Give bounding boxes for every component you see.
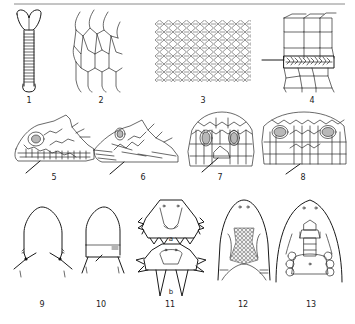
figure-5-drawing bbox=[14, 115, 94, 175]
figure-2-drawing bbox=[70, 10, 125, 92]
figure-8-drawing bbox=[260, 112, 346, 174]
figure-7-drawing bbox=[188, 112, 254, 174]
figure-3-label: 3 bbox=[200, 97, 205, 105]
figure-11-drawing: a b bbox=[138, 198, 204, 300]
figure-3-drawing bbox=[155, 20, 251, 82]
figure-10-drawing bbox=[78, 205, 128, 287]
figure-4-label: 4 bbox=[309, 97, 314, 105]
figure-6-label: 6 bbox=[140, 174, 145, 182]
figure-1-drawing bbox=[14, 8, 46, 93]
figure-6-drawing bbox=[92, 120, 178, 178]
figure-11a-sublabel: a bbox=[169, 235, 173, 243]
top-rule bbox=[0, 0, 355, 10]
figure-11b-sublabel: b bbox=[169, 288, 174, 296]
figure-1-label: 1 bbox=[26, 97, 31, 105]
figure-12-label: 12 bbox=[238, 301, 248, 309]
figure-4-drawing bbox=[262, 10, 337, 92]
illustration-plate: 1 2 3 bbox=[0, 0, 355, 324]
figure-9-label: 9 bbox=[39, 301, 44, 309]
figure-7-label: 7 bbox=[217, 174, 222, 182]
figure-9-drawing bbox=[12, 205, 74, 287]
figure-10-label: 10 bbox=[96, 301, 106, 309]
figure-12-drawing bbox=[216, 198, 272, 286]
figure-5-label: 5 bbox=[51, 174, 56, 182]
figure-13-label: 13 bbox=[306, 301, 316, 309]
figure-8-label: 8 bbox=[300, 174, 305, 182]
figure-13-drawing bbox=[272, 198, 348, 286]
figure-2-label: 2 bbox=[98, 97, 103, 105]
figure-11-label: 11 bbox=[165, 301, 175, 309]
